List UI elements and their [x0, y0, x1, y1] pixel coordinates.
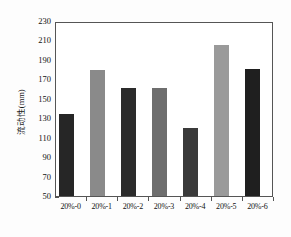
x-axis-tick-label: 20%-3: [148, 202, 179, 211]
x-axis-tick-label: 20%-4: [180, 202, 211, 211]
x-axis-tick-mark: [148, 197, 149, 201]
bar-chart-figure: 流动性(mm) 230210190170150130110907050 20%-…: [0, 0, 291, 237]
bar-slot: [118, 23, 149, 196]
plot-area: [55, 22, 273, 197]
bar[interactable]: [90, 70, 105, 196]
x-axis-tick-mark: [86, 197, 87, 201]
x-axis-tick-mark: [211, 197, 212, 201]
x-axis-tick-label: 20%-5: [211, 202, 242, 211]
bar-slot: [149, 23, 180, 196]
y-axis-tick-label: 130: [11, 114, 51, 123]
bar-slot: [241, 23, 272, 196]
y-axis-tick-label: 50: [11, 192, 51, 201]
y-axis-tick-label: 210: [11, 36, 51, 45]
y-axis-tick-label: 70: [11, 173, 51, 182]
y-axis-tick-label: 190: [11, 56, 51, 65]
bar-series: [56, 23, 272, 196]
y-axis-tick-label: 230: [11, 17, 51, 26]
x-axis-tick-label: 20%-2: [117, 202, 148, 211]
y-axis-tick-label: 90: [11, 153, 51, 162]
bar[interactable]: [59, 114, 74, 196]
y-axis-tick-label: 150: [11, 95, 51, 104]
x-axis-tick-labels: 20%-020%-120%-220%-320%-420%-520%-6: [55, 202, 273, 211]
bar[interactable]: [152, 88, 167, 196]
y-axis-tick-label: 110: [11, 134, 51, 143]
y-axis-tick-mark: [55, 197, 59, 198]
x-axis-tick-mark: [117, 197, 118, 201]
x-axis-tick-mark: [180, 197, 181, 201]
x-axis-tick-mark: [242, 197, 243, 201]
bar[interactable]: [183, 128, 198, 196]
x-axis-tick-label: 20%-0: [55, 202, 86, 211]
x-axis-tick-mark: [273, 197, 274, 201]
x-axis-tick-label: 20%-6: [242, 202, 273, 211]
x-axis-tick-label: 20%-1: [86, 202, 117, 211]
y-axis-tick-label: 170: [11, 75, 51, 84]
bar-slot: [56, 23, 87, 196]
bar[interactable]: [121, 88, 136, 196]
bar[interactable]: [245, 69, 260, 196]
bar[interactable]: [214, 45, 229, 196]
bar-slot: [210, 23, 241, 196]
bar-slot: [87, 23, 118, 196]
bar-slot: [179, 23, 210, 196]
